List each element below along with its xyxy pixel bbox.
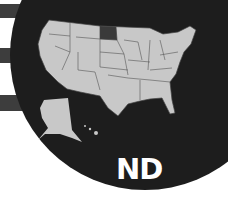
state-label: ND — [116, 152, 162, 186]
north-dakota — [100, 26, 117, 40]
hawaii — [84, 125, 98, 135]
alaska — [38, 98, 82, 142]
us-map — [0, 0, 228, 220]
